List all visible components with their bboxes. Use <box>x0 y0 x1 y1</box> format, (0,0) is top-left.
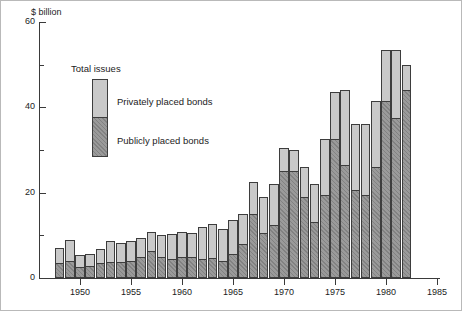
bar-segment-public <box>371 167 381 278</box>
bar-segment-private <box>65 240 75 262</box>
bar-segment-public <box>198 259 208 278</box>
bar-segment-public <box>218 261 228 278</box>
bar-segment-public <box>402 90 412 278</box>
chart-plot-area: $ billion 0204060 1950195519601965197019… <box>1 1 463 312</box>
bar-segment-private <box>361 124 371 195</box>
bar-segment-public <box>55 263 65 278</box>
bar-stack <box>391 50 401 278</box>
bar-stack <box>75 255 85 278</box>
bar-segment-public <box>289 171 299 278</box>
bar-segment-private <box>340 90 350 166</box>
x-tick <box>284 279 285 285</box>
bar-stack <box>55 248 65 278</box>
bar-segment-public <box>259 233 269 278</box>
y-tick-minor <box>40 65 44 66</box>
x-tick <box>131 279 132 285</box>
bar-stack <box>330 92 340 278</box>
bar-segment-public <box>269 225 279 278</box>
bar-segment-public <box>340 165 350 278</box>
legend-swatch-public <box>92 117 108 157</box>
bar-stack <box>238 214 248 278</box>
bar-segment-private <box>116 243 126 263</box>
chart-frame: $ billion 0204060 1950195519601965197019… <box>0 0 462 311</box>
bar-segment-public <box>147 251 157 278</box>
bar-stack <box>351 124 361 278</box>
bar-segment-public <box>320 195 330 278</box>
bar-segment-public <box>300 197 310 278</box>
bar-stack <box>279 148 289 278</box>
bar-stack <box>96 249 106 278</box>
bar-segment-private <box>85 254 95 268</box>
x-axis-line <box>39 278 440 279</box>
bar-segment-private <box>289 150 299 172</box>
legend-swatch-stack <box>92 79 108 157</box>
x-tick-label: 1980 <box>366 288 406 297</box>
x-tick-label: 1970 <box>264 288 304 297</box>
y-tick-major <box>40 22 46 23</box>
bar-stack <box>116 243 126 278</box>
bar-stack <box>361 124 371 278</box>
bar-stack <box>198 227 208 278</box>
bar-segment-public <box>381 101 391 278</box>
x-tick-label: 1950 <box>60 288 100 297</box>
bar-stack <box>65 240 75 278</box>
bar-segment-private <box>320 139 330 196</box>
x-tick <box>437 279 438 285</box>
legend-label-public: Publicly placed bonds <box>117 135 209 146</box>
bar-segment-private <box>167 234 177 260</box>
y-tick-minor <box>40 235 44 236</box>
y-tick-major <box>40 193 46 194</box>
bar-segment-private <box>351 124 361 191</box>
x-tick <box>182 279 183 285</box>
bar-stack <box>126 241 136 279</box>
bar-segment-public <box>228 254 238 278</box>
bar-segment-public <box>238 244 248 278</box>
bar-stack <box>177 232 187 278</box>
x-tick-label: 1955 <box>111 288 151 297</box>
bar-stack <box>320 139 330 278</box>
bar-segment-public <box>279 171 289 278</box>
bar-segment-public <box>157 257 167 278</box>
bar-segment-public <box>85 266 95 278</box>
bar-stack <box>136 238 146 279</box>
bar-segment-public <box>187 257 197 278</box>
bar-stack <box>157 235 167 279</box>
bar-stack <box>371 101 381 278</box>
x-tick-label: 1985 <box>417 288 457 297</box>
bar-segment-public <box>391 118 401 278</box>
bar-segment-private <box>279 148 289 173</box>
bar-segment-public <box>361 195 371 278</box>
bar-segment-public <box>96 263 106 278</box>
bar-stack <box>289 150 299 278</box>
bar-stack <box>147 232 157 278</box>
bar-stack <box>228 220 238 278</box>
bar-stack <box>269 184 279 278</box>
bar-segment-private <box>187 233 197 258</box>
bar-segment-private <box>55 248 65 264</box>
y-tick-label: 40 <box>9 102 35 111</box>
bar-segment-public <box>208 258 218 278</box>
bar-segment-private <box>177 232 187 259</box>
bar-stack <box>167 234 177 278</box>
x-tick <box>335 279 336 285</box>
bar-segment-private <box>402 65 412 92</box>
x-tick-label: 1965 <box>213 288 253 297</box>
bar-segment-public <box>136 257 146 278</box>
bar-segment-public <box>177 257 187 278</box>
bar-segment-private <box>218 229 228 262</box>
legend-label-private: Privately placed bonds <box>117 96 213 107</box>
bar-segment-public <box>249 214 259 278</box>
bar-segment-private <box>269 184 279 226</box>
bar-segment-private <box>228 220 238 255</box>
bar-segment-private <box>106 241 116 263</box>
bar-stack <box>85 254 95 278</box>
x-tick-label: 1960 <box>162 288 202 297</box>
bar-segment-private <box>136 238 146 258</box>
bar-segment-private <box>126 241 136 262</box>
y-axis-title: $ billion <box>31 7 62 17</box>
y-tick-major <box>40 107 46 108</box>
bar-segment-private <box>391 50 401 119</box>
bar-segment-public <box>351 190 361 278</box>
bar-segment-private <box>330 92 340 140</box>
x-tick <box>80 279 81 285</box>
